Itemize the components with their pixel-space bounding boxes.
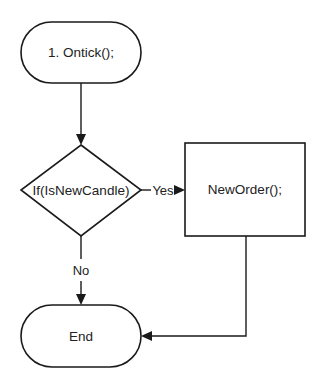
edge-yes: Yes bbox=[141, 183, 185, 198]
edge-start-to-decision bbox=[76, 83, 86, 145]
arrowhead-right-icon bbox=[174, 185, 185, 195]
end-node[interactable]: End bbox=[21, 305, 141, 367]
connector-line bbox=[151, 236, 246, 336]
action-label: NewOrder(); bbox=[208, 182, 282, 197]
yes-label: Yes bbox=[152, 183, 174, 198]
arrowhead-left-icon bbox=[141, 331, 152, 341]
decision-node[interactable]: If(IsNewCandle) bbox=[21, 145, 141, 236]
start-label: 1. Ontick(); bbox=[48, 45, 114, 60]
start-node[interactable]: 1. Ontick(); bbox=[21, 22, 141, 83]
no-label: No bbox=[73, 263, 90, 278]
end-label: End bbox=[69, 329, 93, 344]
edge-action-to-end bbox=[141, 236, 246, 341]
arrowhead-down-icon bbox=[76, 294, 86, 305]
decision-label: If(IsNewCandle) bbox=[33, 183, 130, 198]
flowchart-canvas: 1. Ontick(); If(IsNewCandle) Yes NewOrde… bbox=[0, 0, 322, 389]
action-node[interactable]: NewOrder(); bbox=[185, 143, 305, 236]
edge-no: No bbox=[73, 236, 90, 305]
arrowhead-down-icon bbox=[76, 134, 86, 145]
